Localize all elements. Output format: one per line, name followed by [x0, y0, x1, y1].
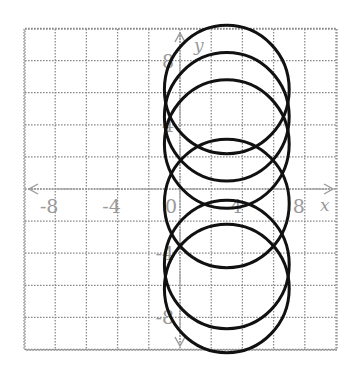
y-axis-up-arrow-icon [175, 33, 185, 42]
x-axis-label: x [320, 195, 330, 215]
circle-6 [164, 224, 289, 352]
x-tick-label: -8 [40, 195, 59, 217]
circle-1 [164, 25, 289, 153]
circle-4 [164, 139, 289, 267]
circle-2 [164, 53, 289, 181]
x-tick-label: 0 [165, 195, 177, 217]
coordinate-plane: -8-404884-4-8 x y [0, 0, 360, 367]
x-tick-label: -4 [102, 195, 121, 217]
x-axis-left-arrow-icon [29, 184, 38, 194]
circle-5 [164, 200, 289, 328]
y-axis-label: y [193, 35, 204, 55]
x-tick-label: 8 [293, 195, 305, 217]
